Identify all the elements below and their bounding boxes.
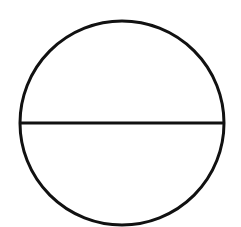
diagram-canvas: [0, 0, 241, 227]
